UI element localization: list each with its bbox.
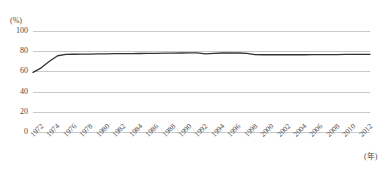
y-axis-tick-label: 0 bbox=[2, 128, 28, 136]
plot-area bbox=[33, 31, 370, 132]
x-axis-unit-label: (年) bbox=[364, 150, 377, 161]
line-chart: (%) 020406080100 19721974197619781980198… bbox=[0, 0, 389, 173]
y-axis-tick-label: 40 bbox=[2, 88, 28, 96]
x-axis-tick-labels: 1972197419761978198019821984198619881990… bbox=[33, 133, 370, 173]
y-axis-unit-label: (%) bbox=[10, 16, 22, 25]
y-axis-tick-label: 80 bbox=[2, 47, 28, 55]
series-line bbox=[33, 31, 370, 132]
y-axis-tick-label: 100 bbox=[2, 27, 28, 35]
series-polyline bbox=[33, 53, 370, 72]
y-axis-tick-label: 20 bbox=[2, 108, 28, 116]
y-axis-tick-label: 60 bbox=[2, 67, 28, 75]
